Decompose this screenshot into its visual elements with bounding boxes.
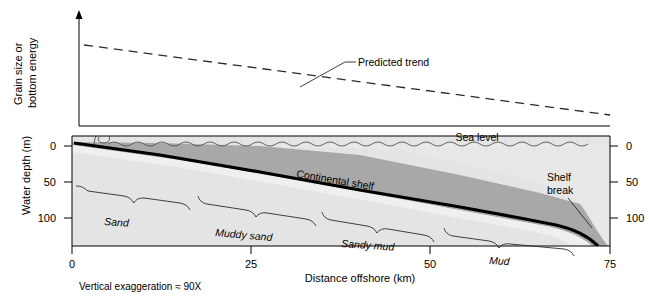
lower-panel-ylabel: Water depth (m) [20,136,32,215]
x-tick-label-75: 75 [604,258,616,270]
zone-label-sand: Sand [104,215,130,229]
y-tick-label-right-0: 0 [626,140,632,152]
x-tick-label-25: 25 [245,258,257,270]
y-tick-label-left-0: 0 [50,140,56,152]
upper-panel-ylabel-line1: Grain size or [12,42,24,105]
shelf-break-label-line1: Shelf [547,171,571,183]
continental-shelf-figure: Grain size or bottom energy Predicted tr… [0,0,649,306]
vertical-exaggeration-note: Vertical exaggeration ≈ 90X [79,281,202,292]
x-tick-label-0: 0 [69,258,75,270]
x-tick-label-50: 50 [424,258,436,270]
predicted-trend-label: Predicted trend [358,56,429,68]
y-tick-label-right-50: 50 [626,176,638,188]
upper-panel-ylabel-line2: bottom energy [26,37,38,108]
zone-label-mud: Mud [489,254,511,267]
y-tick-label-left-50: 50 [44,176,56,188]
sea-level-label: Sea level [455,131,498,143]
y-tick-label-right-100: 100 [626,212,644,224]
lower-panel-xlabel: Distance offshore (km) [305,272,415,284]
shelf-break-label-line2: break [547,184,574,196]
y-tick-label-left-100: 100 [38,212,56,224]
